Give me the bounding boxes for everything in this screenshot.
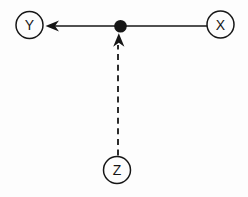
- node-X-label: X: [216, 17, 226, 33]
- causal-diagram: YXZ: [0, 0, 248, 197]
- node-Y-label: Y: [25, 17, 35, 33]
- junction-dot: [114, 20, 127, 33]
- node-Z-label: Z: [113, 162, 122, 178]
- diagram-canvas: YXZ: [0, 0, 248, 197]
- edge-z-to-junction-arrowhead-icon: [113, 33, 124, 47]
